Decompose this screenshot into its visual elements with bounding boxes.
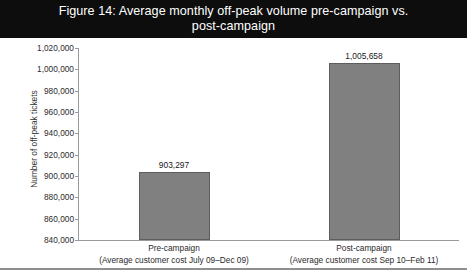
y-axis-tick-mark — [75, 112, 78, 113]
y-axis-tick-labels: 1,020,0001,000,000980,000960,000940,0009… — [24, 38, 74, 275]
y-axis-tick-mark — [75, 176, 78, 177]
bottom-divider — [0, 268, 467, 270]
y-axis-tick-mark — [75, 91, 78, 92]
x-axis-label-line2: (Average customer cost Sep 10–Feb 11) — [257, 255, 467, 267]
y-axis-tick-label: 920,000 — [24, 150, 74, 160]
figure-container: Figure 14: Average monthly off-peak volu… — [0, 0, 467, 275]
y-axis-tick-mark — [75, 240, 78, 241]
x-axis-label-line1: Pre-campaign — [67, 243, 281, 255]
x-axis-line — [78, 240, 459, 241]
chart-plot-wrapper: Number of off-peak tickets 1,020,0001,00… — [0, 38, 467, 275]
y-axis-tick-mark — [75, 69, 78, 70]
y-axis-tick-mark — [75, 219, 78, 220]
y-axis-tick-label: 900,000 — [24, 171, 74, 181]
bar-value-label: 903,297 — [159, 160, 189, 170]
figure-title-bar: Figure 14: Average monthly off-peak volu… — [0, 0, 467, 38]
x-axis-label: Post-campaign(Average customer cost Sep … — [257, 243, 467, 266]
y-axis-tick-label: 980,000 — [24, 86, 74, 96]
y-axis-tick-mark — [75, 48, 78, 49]
x-axis-label-line1: Post-campaign — [257, 243, 467, 255]
chart-plot-area: 903,2971,005,658 — [79, 48, 459, 240]
bar-slot: 903,297 — [139, 48, 210, 240]
bar-slot: 1,005,658 — [329, 48, 400, 240]
y-axis-tick-label: 880,000 — [24, 192, 74, 202]
y-axis-tick-mark — [75, 155, 78, 156]
bar-post-campaign[interactable] — [329, 63, 400, 240]
bar-pre-campaign[interactable] — [139, 172, 210, 240]
y-axis-tick-label: 960,000 — [24, 107, 74, 117]
bar-value-label: 1,005,658 — [345, 51, 382, 61]
figure-title: Figure 14: Average monthly off-peak volu… — [44, 4, 423, 35]
y-axis-tick-mark — [75, 197, 78, 198]
x-axis-label-line2: (Average customer cost July 09–Dec 09) — [67, 255, 281, 267]
x-axis-label: Pre-campaign(Average customer cost July … — [67, 243, 281, 266]
y-axis-tick-label: 1,000,000 — [24, 64, 74, 74]
x-axis-category-labels: Pre-campaign(Average customer cost July … — [79, 243, 459, 275]
y-axis-tick-label: 1,020,000 — [24, 43, 74, 53]
y-axis-tick-label: 860,000 — [24, 214, 74, 224]
y-axis-tick-mark — [75, 133, 78, 134]
y-axis-tick-label: 940,000 — [24, 128, 74, 138]
